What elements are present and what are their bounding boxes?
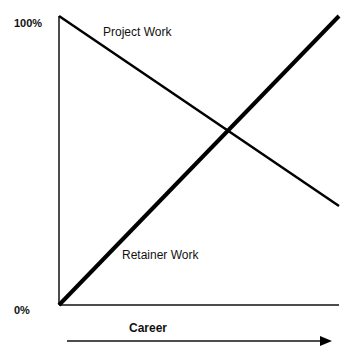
chart-plot	[0, 0, 352, 359]
chart: 100% 0% Project Work Retainer Work Caree…	[0, 0, 352, 359]
project-work-label: Project Work	[103, 25, 171, 39]
x-axis-label: Career	[129, 321, 167, 335]
project-work-line	[59, 16, 339, 206]
y-tick-100: 100%	[14, 17, 42, 29]
retainer-work-label: Retainer Work	[122, 248, 198, 262]
y-tick-0: 0%	[14, 304, 30, 316]
retainer-work-line	[59, 16, 339, 305]
career-arrow-head	[320, 336, 332, 346]
